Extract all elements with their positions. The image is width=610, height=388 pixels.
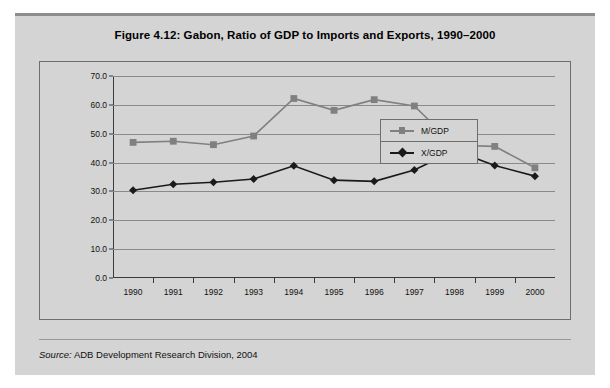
data-point (169, 180, 177, 188)
x-tick-mark (234, 278, 235, 283)
data-point (532, 164, 539, 171)
data-point (170, 138, 177, 145)
data-point (491, 143, 498, 150)
x-tick-mark (394, 278, 395, 283)
data-point (210, 141, 217, 148)
y-tick-label: 20.0 (90, 215, 107, 225)
x-tick-mark (274, 278, 275, 283)
legend-diamond-marker-icon (390, 147, 414, 158)
y-tick-label: 40.0 (90, 158, 107, 168)
y-tick-label: 60.0 (90, 100, 107, 110)
data-point (290, 95, 297, 102)
source-value: ADB Development Research Division, 2004 (74, 349, 258, 360)
data-point (130, 139, 137, 146)
x-tick-mark (354, 278, 355, 283)
data-point (209, 178, 217, 186)
x-tick-label: 1995 (325, 287, 344, 297)
data-point (290, 162, 298, 170)
series-layer (113, 76, 555, 278)
y-tick-label: 50.0 (90, 129, 107, 139)
source-divider (39, 339, 571, 340)
x-tick-label: 1996 (365, 287, 384, 297)
legend-item-m-gdp: M/GDP (381, 120, 477, 141)
y-tick-label: 30.0 (90, 186, 107, 196)
x-tick-label: 1997 (405, 287, 424, 297)
x-tick-mark (153, 278, 154, 283)
data-point (531, 172, 539, 180)
data-point (491, 161, 499, 169)
x-tick-label: 1990 (124, 287, 143, 297)
legend-label: M/GDP (421, 126, 449, 136)
y-tick-label: 70.0 (90, 71, 107, 81)
figure-panel: Figure 4.12: Gabon, Ratio of GDP to Impo… (15, 13, 595, 375)
x-tick-label: 1998 (445, 287, 464, 297)
x-tick-label: 1994 (284, 287, 303, 297)
figure-title: Figure 4.12: Gabon, Ratio of GDP to Impo… (15, 29, 595, 41)
x-tick-mark (434, 278, 435, 283)
data-point (129, 186, 137, 194)
data-point (411, 103, 418, 110)
data-point (250, 133, 257, 140)
data-point (371, 96, 378, 103)
chart-frame: 70.060.050.040.030.020.010.00.0 19901991… (39, 61, 571, 320)
data-point (370, 177, 378, 185)
legend-square-marker-icon (390, 125, 414, 136)
plot-area: 70.060.050.040.030.020.010.00.0 19901991… (113, 76, 555, 278)
legend-item-x-gdp: X/GDP (381, 141, 477, 163)
x-tick-mark (193, 278, 194, 283)
x-tick-mark (314, 278, 315, 283)
x-tick-label: 1993 (244, 287, 263, 297)
figure-root: Figure 4.12: Gabon, Ratio of GDP to Impo… (0, 0, 610, 388)
data-point (250, 175, 258, 183)
x-tick-mark (475, 278, 476, 283)
source-label: Source: (39, 349, 72, 360)
y-tick-label: 0.0 (95, 273, 107, 283)
source-note: Source: ADB Development Research Divisio… (39, 349, 258, 360)
data-point (410, 166, 418, 174)
data-point (331, 107, 338, 114)
data-point (330, 176, 338, 184)
chart-legend: M/GDPX/GDP (380, 119, 478, 164)
x-tick-label: 1991 (164, 287, 183, 297)
x-tick-mark (515, 278, 516, 283)
x-tick-label: 2000 (525, 287, 544, 297)
y-tick-label: 10.0 (90, 244, 107, 254)
x-tick-label: 1999 (485, 287, 504, 297)
legend-label: X/GDP (421, 148, 447, 158)
x-tick-label: 1992 (204, 287, 223, 297)
